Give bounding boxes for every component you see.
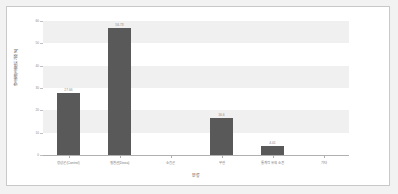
bar: [261, 146, 283, 155]
y-axis-tick: [40, 133, 43, 134]
x-axis-tick: [69, 155, 70, 158]
y-axis-tick: [40, 43, 43, 44]
bar: [108, 28, 130, 155]
x-axis-tick-label: 통계적 유의 소견: [247, 161, 298, 166]
x-axis-tick: [171, 155, 172, 158]
x-axis-title: 분류: [43, 173, 349, 179]
x-axis-tick-label: 소음군: [145, 161, 196, 166]
x-axis-tick: [273, 155, 274, 158]
y-axis-tick-label: 50: [23, 41, 39, 45]
x-axis-tick-label: 기타: [298, 161, 349, 166]
y-axis-tick-label: 20: [23, 108, 39, 112]
x-axis-tick: [324, 155, 325, 158]
bar: [210, 118, 232, 155]
x-axis-tick: [120, 155, 121, 158]
y-axis-tick: [40, 66, 43, 67]
x-axis-tick-label: 정상군(Control): [43, 161, 94, 166]
x-axis-tick-label: 무관: [196, 161, 247, 166]
bar-value-label: 4.01: [247, 141, 298, 145]
y-axis-tick-label: 0: [23, 153, 39, 157]
y-axis-tick: [40, 110, 43, 111]
x-axis-line: [43, 155, 349, 156]
bar-value-label: 16.6: [196, 113, 247, 117]
y-axis-tick-label: 10: [23, 131, 39, 135]
y-axis-tick: [40, 21, 43, 22]
y-axis-tick-label: 40: [23, 64, 39, 68]
bar-value-label: 27.66: [43, 88, 94, 92]
y-axis-tick-label: 30: [23, 86, 39, 90]
bar-chart: 0102030405060 총사용량(사용빈도 기준 %) 정상군(Contro…: [7, 7, 389, 185]
y-axis-title: 총사용량(사용빈도 기준 %): [14, 33, 19, 103]
x-axis-tick: [222, 155, 223, 158]
page-background: 0102030405060 총사용량(사용빈도 기준 %) 정상군(Contro…: [0, 0, 398, 194]
x-axis-tick-label: 질환군(Disea): [94, 161, 145, 166]
bar: [57, 93, 79, 155]
bar-value-label: 56.73: [94, 23, 145, 27]
y-axis-tick-label: 60: [23, 19, 39, 23]
chart-card: 0102030405060 총사용량(사용빈도 기준 %) 정상군(Contro…: [6, 6, 390, 186]
